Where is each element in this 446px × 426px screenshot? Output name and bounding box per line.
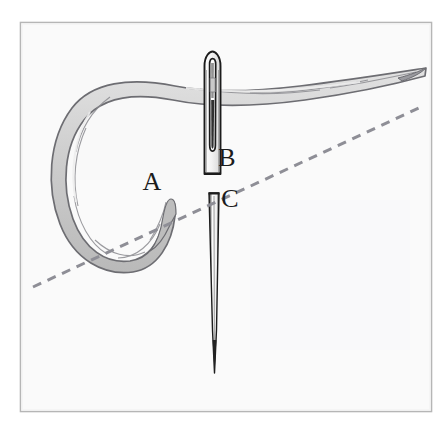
illustration-svg: A B C [0, 0, 446, 426]
thread-through-eye [210, 78, 215, 92]
label-a: A [143, 167, 162, 196]
label-b: B [218, 143, 235, 172]
label-c: C [221, 184, 238, 213]
figure-root: A B C [0, 0, 446, 426]
